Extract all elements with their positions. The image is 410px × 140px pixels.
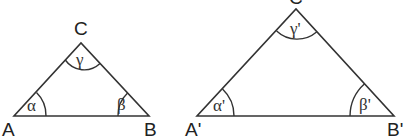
angle-alpha-arc (37, 93, 47, 116)
vertex-b-label: B (144, 119, 157, 140)
angle-gamma-label: γ (75, 50, 84, 69)
vertex-c-prime-label: C' (289, 0, 306, 8)
angle-gamma-prime-label: γ' (289, 19, 301, 38)
angle-beta-prime-label: β' (359, 95, 371, 114)
triangle-abc: α β γ A B C (2, 18, 157, 140)
vertex-a-prime-label: A' (185, 119, 201, 140)
angle-alpha-label: α (27, 96, 36, 115)
angle-alpha-prime-label: α' (213, 96, 225, 115)
vertex-a-label: A (2, 119, 15, 140)
vertex-b-prime-label: B' (387, 119, 403, 140)
diagram-canvas: α β γ A B C α' β' γ' A' B' C' (0, 0, 410, 140)
angle-beta-label: β (117, 95, 126, 114)
triangle-a-prime-b-prime-c-prime: α' β' γ' A' B' C' (185, 0, 403, 140)
vertex-c-label: C (74, 18, 88, 39)
similar-triangles-diagram: α β γ A B C α' β' γ' A' B' C' (0, 0, 410, 140)
